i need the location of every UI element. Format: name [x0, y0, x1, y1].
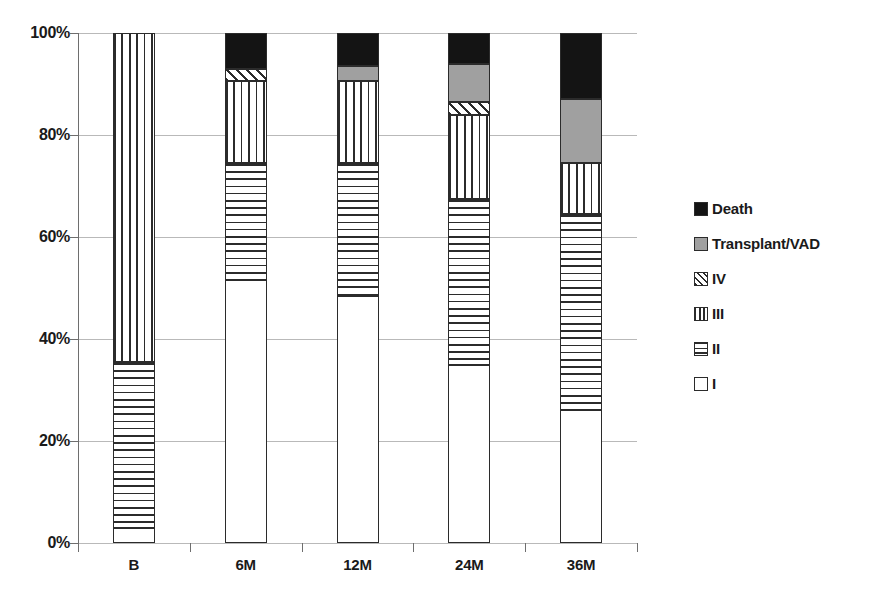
bar-segment-36M-I[interactable]	[560, 410, 602, 543]
bar-segment-24M-Death[interactable]	[448, 33, 490, 64]
stacked-bar-chart: 0%20%40%60%80%100% B6M12M24M36M DeathTra…	[0, 0, 878, 592]
bar-B[interactable]	[113, 33, 155, 543]
bar-segment-B-II[interactable]	[113, 362, 155, 528]
y-axis-tick	[70, 237, 79, 238]
x-axis-tick	[190, 543, 191, 552]
legend-item-I[interactable]: I	[694, 366, 874, 401]
bar-segment-6M-III[interactable]	[225, 81, 267, 163]
y-axis-tick-label: 0%	[8, 534, 70, 552]
bar-segment-36M-TransplantVAD[interactable]	[560, 99, 602, 163]
bar-segment-12M-II[interactable]	[337, 163, 379, 296]
bar-segment-36M-III[interactable]	[560, 163, 602, 214]
bar-6M[interactable]	[225, 33, 267, 543]
bar-segment-24M-TransplantVAD[interactable]	[448, 64, 490, 102]
bar-segment-6M-II[interactable]	[225, 163, 267, 280]
legend-swatch-icon	[694, 202, 708, 216]
plot-area	[78, 33, 637, 543]
legend-swatch-icon	[694, 342, 708, 356]
bar-segment-36M-Death[interactable]	[560, 33, 602, 99]
legend-item-label: Death	[712, 200, 753, 217]
bar-segment-12M-I[interactable]	[337, 296, 379, 543]
legend-item-label: IV	[712, 270, 726, 287]
bar-24M[interactable]	[448, 33, 490, 543]
legend-item-TransplantVAD[interactable]: Transplant/VAD	[694, 226, 874, 261]
y-axis-tick	[70, 339, 79, 340]
bar-segment-24M-II[interactable]	[448, 199, 490, 365]
legend-item-II[interactable]: II	[694, 331, 874, 366]
x-axis-tick-label-24M: 24M	[413, 556, 525, 573]
legend-item-label: II	[712, 340, 720, 357]
x-axis-tick	[637, 543, 638, 552]
legend-item-III[interactable]: III	[694, 296, 874, 331]
chart-legend: DeathTransplant/VADIVIIIIII	[694, 191, 874, 401]
gridline	[78, 543, 637, 544]
legend-item-label: III	[712, 305, 724, 322]
legend-item-label: Transplant/VAD	[712, 235, 820, 252]
bar-segment-12M-Death[interactable]	[337, 33, 379, 66]
bar-segment-36M-II[interactable]	[560, 214, 602, 410]
x-axis-tick-label-12M: 12M	[302, 556, 414, 573]
y-axis-tick	[70, 135, 79, 136]
legend-swatch-icon	[694, 307, 708, 321]
legend-item-Death[interactable]: Death	[694, 191, 874, 226]
x-axis-tick-label-36M: 36M	[525, 556, 637, 573]
x-axis-tick	[302, 543, 303, 552]
bar-segment-6M-IV[interactable]	[225, 69, 267, 82]
bar-segment-12M-III[interactable]	[337, 81, 379, 163]
bar-12M[interactable]	[337, 33, 379, 543]
bar-segment-B-I[interactable]	[113, 528, 155, 543]
x-axis-tick	[413, 543, 414, 552]
y-axis-tick-label: 80%	[8, 126, 70, 144]
y-axis-labels: 0%20%40%60%80%100%	[0, 0, 70, 592]
legend-item-IV[interactable]: IV	[694, 261, 874, 296]
bar-segment-24M-I[interactable]	[448, 365, 490, 544]
y-axis-tick-label: 100%	[8, 24, 70, 42]
y-axis-tick	[70, 441, 79, 442]
bar-segment-12M-TransplantVAD[interactable]	[337, 66, 379, 81]
bar-segment-B-III[interactable]	[113, 33, 155, 362]
x-axis-tick	[78, 543, 79, 552]
y-axis-tick-label: 40%	[8, 330, 70, 348]
x-axis-tick-label-B: B	[78, 556, 190, 573]
bar-segment-24M-III[interactable]	[448, 115, 490, 199]
bar-segment-24M-IV[interactable]	[448, 102, 490, 115]
legend-swatch-icon	[694, 377, 708, 391]
bar-segment-6M-I[interactable]	[225, 280, 267, 543]
legend-swatch-icon	[694, 272, 708, 286]
x-axis-tick-label-6M: 6M	[190, 556, 302, 573]
legend-swatch-icon	[694, 237, 708, 251]
y-axis-tick-label: 20%	[8, 432, 70, 450]
y-axis-tick	[70, 33, 79, 34]
y-axis-tick-label: 60%	[8, 228, 70, 246]
bar-36M[interactable]	[560, 33, 602, 543]
x-axis-tick	[525, 543, 526, 552]
bar-segment-6M-Death[interactable]	[225, 33, 267, 69]
legend-item-label: I	[712, 375, 716, 392]
